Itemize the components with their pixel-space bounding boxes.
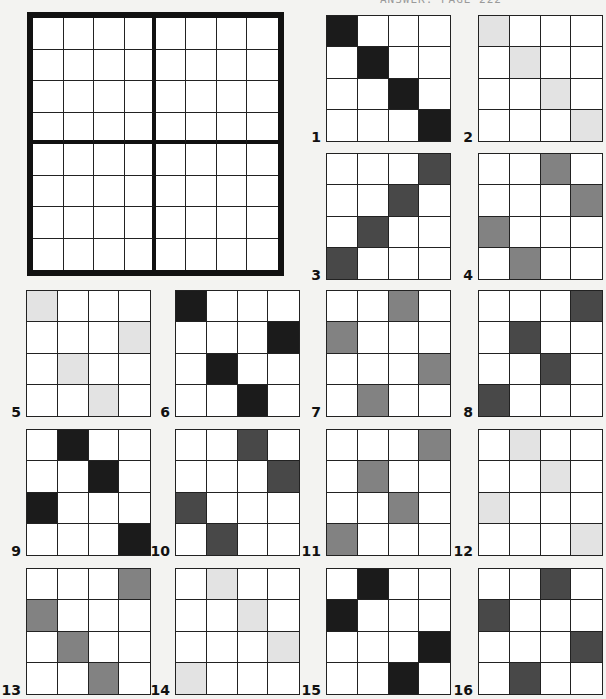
main-grid-cell[interactable]	[94, 81, 125, 113]
puzzle-piece-10[interactable]: 10	[175, 429, 300, 556]
main-grid-cell[interactable]	[125, 207, 156, 239]
main-grid-cell[interactable]	[94, 144, 125, 176]
main-grid-cell[interactable]	[186, 176, 217, 208]
main-grid-cell[interactable]	[33, 207, 64, 239]
main-grid-cell[interactable]	[186, 18, 217, 50]
main-grid-cell[interactable]	[186, 81, 217, 113]
puzzle-piece-16[interactable]: 16	[478, 568, 603, 695]
main-grid-cell[interactable]	[247, 81, 278, 113]
main-grid-cell[interactable]	[186, 113, 217, 145]
main-grid-cell[interactable]	[217, 207, 248, 239]
puzzle-grid	[175, 568, 300, 695]
main-grid-cell[interactable]	[94, 113, 125, 145]
main-grid-cell[interactable]	[247, 176, 278, 208]
empty-cell	[58, 461, 89, 492]
main-grid-cell[interactable]	[94, 176, 125, 208]
main-grid-cell[interactable]	[64, 81, 95, 113]
main-grid-cell[interactable]	[33, 176, 64, 208]
empty-cell	[358, 632, 389, 663]
main-grid-cell[interactable]	[94, 239, 125, 271]
main-grid-cell[interactable]	[94, 207, 125, 239]
main-grid-cell[interactable]	[33, 144, 64, 176]
empty-cell	[358, 248, 389, 279]
main-grid-cell[interactable]	[186, 239, 217, 271]
main-puzzle-grid[interactable]	[27, 12, 284, 276]
puzzle-piece-13[interactable]: 13	[26, 568, 151, 695]
empty-cell	[89, 291, 120, 322]
main-grid-cell[interactable]	[156, 239, 187, 271]
empty-cell	[358, 154, 389, 185]
puzzle-piece-4[interactable]: 4	[478, 153, 603, 280]
main-grid-cell[interactable]	[94, 50, 125, 82]
main-grid-cell[interactable]	[125, 18, 156, 50]
main-grid-cell[interactable]	[125, 81, 156, 113]
main-grid-cell[interactable]	[186, 50, 217, 82]
main-grid-cell[interactable]	[125, 239, 156, 271]
main-grid-cell[interactable]	[247, 239, 278, 271]
main-grid-cell[interactable]	[156, 18, 187, 50]
puzzle-piece-8[interactable]: 8	[478, 290, 603, 417]
empty-cell	[358, 430, 389, 461]
shaded-cell	[479, 600, 510, 631]
main-grid-cell[interactable]	[33, 239, 64, 271]
main-grid-cell[interactable]	[247, 18, 278, 50]
puzzle-piece-9[interactable]: 9	[26, 429, 151, 556]
main-grid-cell[interactable]	[33, 81, 64, 113]
main-grid-cell[interactable]	[217, 113, 248, 145]
main-grid-cell[interactable]	[156, 81, 187, 113]
main-grid-cell[interactable]	[33, 18, 64, 50]
main-grid-cell[interactable]	[156, 144, 187, 176]
main-grid-cell[interactable]	[64, 176, 95, 208]
main-grid-cell[interactable]	[125, 144, 156, 176]
puzzle-piece-2[interactable]: 2	[478, 15, 603, 142]
puzzle-piece-15[interactable]: 15	[326, 568, 451, 695]
puzzle-piece-14[interactable]: 14	[175, 568, 300, 695]
main-grid-cell[interactable]	[125, 176, 156, 208]
main-grid-cell[interactable]	[247, 207, 278, 239]
main-grid-cell[interactable]	[64, 50, 95, 82]
puzzle-number-label: 9	[11, 544, 21, 558]
main-grid-cell[interactable]	[156, 50, 187, 82]
main-grid-cell[interactable]	[217, 144, 248, 176]
puzzle-piece-7[interactable]: 7	[326, 290, 451, 417]
empty-cell	[541, 110, 572, 141]
main-grid-cell[interactable]	[247, 144, 278, 176]
main-grid-cell[interactable]	[217, 50, 248, 82]
main-grid-cell[interactable]	[247, 50, 278, 82]
puzzle-piece-6[interactable]: 6	[175, 290, 300, 417]
puzzle-piece-1[interactable]: 1	[326, 15, 451, 142]
shaded-cell	[419, 354, 450, 385]
empty-cell	[419, 248, 450, 279]
main-grid-cell[interactable]	[33, 113, 64, 145]
main-grid-cell[interactable]	[125, 50, 156, 82]
puzzle-piece-3[interactable]: 3	[326, 153, 451, 280]
empty-cell	[207, 322, 238, 353]
empty-cell	[27, 632, 58, 663]
main-grid-cell[interactable]	[156, 207, 187, 239]
shaded-cell	[89, 663, 120, 694]
main-grid-cell[interactable]	[217, 81, 248, 113]
main-grid-cell[interactable]	[64, 144, 95, 176]
main-grid-cell[interactable]	[247, 113, 278, 145]
empty-cell	[541, 322, 572, 353]
main-grid-cell[interactable]	[217, 176, 248, 208]
main-grid-cell[interactable]	[64, 207, 95, 239]
main-grid-cell[interactable]	[156, 176, 187, 208]
puzzle-grid	[478, 290, 603, 417]
main-grid-cell[interactable]	[217, 239, 248, 271]
main-grid-cell[interactable]	[217, 18, 248, 50]
main-grid-cell[interactable]	[64, 18, 95, 50]
shaded-cell	[541, 461, 572, 492]
main-grid-cell[interactable]	[156, 113, 187, 145]
main-grid-cell[interactable]	[186, 207, 217, 239]
main-grid-cell[interactable]	[125, 113, 156, 145]
puzzle-piece-11[interactable]: 11	[326, 429, 451, 556]
puzzle-piece-5[interactable]: 5	[26, 290, 151, 417]
main-grid-cell[interactable]	[94, 18, 125, 50]
empty-cell	[238, 322, 269, 353]
main-grid-cell[interactable]	[186, 144, 217, 176]
main-grid-cell[interactable]	[64, 239, 95, 271]
main-grid-cell[interactable]	[64, 113, 95, 145]
main-grid-cell[interactable]	[33, 50, 64, 82]
puzzle-piece-12[interactable]: 12	[478, 429, 603, 556]
